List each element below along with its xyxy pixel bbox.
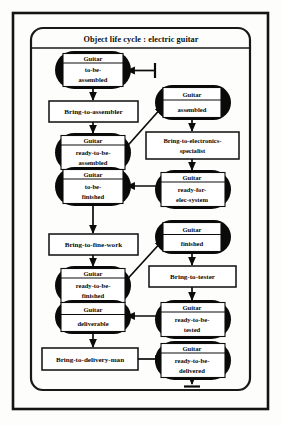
state-header: Guitar bbox=[182, 174, 201, 181]
action-line1: Bring-to-delivery-man bbox=[56, 356, 124, 364]
action-line1: Bring-to-electronics- bbox=[163, 137, 221, 144]
state-header: Guitar bbox=[182, 304, 201, 311]
state-header: Guitar bbox=[182, 226, 201, 233]
action-node-bring-to-electronics-specialist[interactable]: Bring-to-electronics- specialist bbox=[146, 132, 239, 159]
state-line1: ready-to-be- bbox=[175, 357, 210, 364]
diagram-canvas: Object life cycle : electric guitar bbox=[0, 0, 281, 425]
action-line1: Bring-to-assembler bbox=[64, 108, 122, 116]
state-line2: assembled bbox=[79, 76, 108, 83]
state-node-ready-for-elec-system[interactable]: Guitar ready-for- elec-system bbox=[155, 170, 231, 209]
state-line1: ready-to-be- bbox=[76, 149, 111, 156]
action-node-bring-to-delivery-man[interactable]: Bring-to-delivery-man bbox=[42, 348, 138, 370]
action-node-bring-to-assembler[interactable]: Bring-to-assembler bbox=[49, 101, 138, 122]
state-node-ready-to-be-tested[interactable]: Guitar ready-to-be- tested bbox=[155, 300, 231, 339]
state-node-to-be-finished[interactable]: Guitar to-be- finished bbox=[55, 167, 131, 206]
state-header: Guitar bbox=[83, 270, 102, 277]
state-line2: tested bbox=[184, 326, 201, 333]
state-node-ready-to-be-delivered[interactable]: Guitar ready-to-be- delivered bbox=[155, 341, 231, 380]
action-node-bring-to-fine-work[interactable]: Bring-to-fine-work bbox=[49, 234, 138, 255]
state-line1: assembled bbox=[178, 106, 207, 113]
state-line1: ready-for- bbox=[178, 186, 207, 193]
state-node-finished[interactable]: Guitar finished bbox=[155, 220, 231, 254]
state-line2: finished bbox=[82, 193, 105, 200]
state-line2: elec-system bbox=[176, 196, 208, 203]
state-node-ready-to-be-assembled[interactable]: Guitar ready-to-be- assembled bbox=[55, 133, 131, 172]
state-line1: ready-to-be- bbox=[175, 316, 210, 323]
state-header: Guitar bbox=[83, 171, 102, 178]
action-line1: Bring-to-tester bbox=[170, 273, 215, 281]
state-header: Guitar bbox=[182, 345, 201, 352]
state-header: Guitar bbox=[182, 91, 201, 98]
state-line1: deliverable bbox=[77, 320, 108, 327]
state-node-deliverable[interactable]: Guitar deliverable bbox=[55, 300, 131, 334]
state-node-to-be-assembled[interactable]: Guitar to-be- assembled bbox=[55, 51, 131, 89]
state-line1: to-be- bbox=[85, 66, 101, 73]
object-life-cycle-diagram: Object life cycle : electric guitar bbox=[0, 0, 281, 425]
state-node-ready-to-be-finished[interactable]: Guitar ready-to-be- finished bbox=[55, 266, 131, 305]
state-header: Guitar bbox=[83, 137, 102, 144]
state-line1: ready-to-be- bbox=[76, 282, 111, 289]
state-line1: finished bbox=[181, 240, 204, 247]
state-header: Guitar bbox=[83, 306, 102, 313]
state-line2: delivered bbox=[179, 367, 205, 374]
action-line1: Bring-to-fine-work bbox=[65, 241, 123, 249]
state-line2: finished bbox=[82, 292, 105, 299]
action-node-bring-to-tester[interactable]: Bring-to-tester bbox=[149, 266, 236, 287]
action-line2: specialist bbox=[180, 147, 206, 154]
start-marker bbox=[127, 63, 155, 78]
state-node-assembled[interactable]: Guitar assembled bbox=[155, 85, 231, 120]
diagram-title: Object life cycle : electric guitar bbox=[83, 35, 198, 44]
state-header: Guitar bbox=[83, 55, 102, 62]
state-line2: assembled bbox=[79, 159, 108, 166]
state-line1: to-be- bbox=[85, 183, 101, 190]
